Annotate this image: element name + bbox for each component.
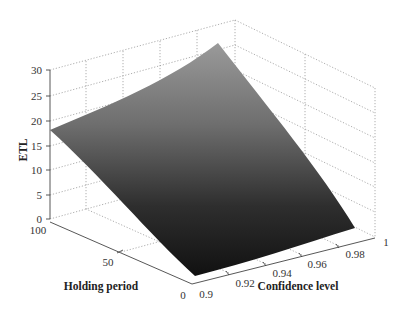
svg-text:0.98: 0.98 [345,248,365,260]
svg-text:0.9: 0.9 [199,288,213,300]
svg-text:0.94: 0.94 [272,267,292,279]
svg-text:5: 5 [37,189,43,201]
svg-text:10: 10 [31,164,43,176]
svg-text:0.92: 0.92 [235,277,254,289]
svg-text:20: 20 [31,115,43,127]
svg-text:50: 50 [103,256,115,268]
x-axis-label: Confidence level [258,280,339,292]
svg-text:30: 30 [31,64,43,76]
svg-text:1: 1 [383,236,389,248]
y-axis-label: Holding period [64,280,139,293]
svg-text:0.96: 0.96 [307,258,327,270]
svg-text:15: 15 [31,140,43,152]
surface-chart: 30 25 20 15 10 5 0 100 50 0 0.9 0.92 0.9… [0,0,400,317]
svg-text:0: 0 [180,289,186,301]
z-tick-labels: 30 25 20 15 10 5 0 [31,64,43,225]
svg-text:25: 25 [31,90,43,102]
etl-surface [50,43,355,276]
svg-text:100: 100 [30,224,47,236]
z-axis-label: ETL [17,138,29,161]
